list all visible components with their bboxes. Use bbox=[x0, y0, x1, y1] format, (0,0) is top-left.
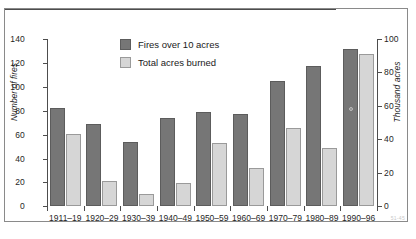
bar-group bbox=[47, 39, 84, 206]
y-ticklabel-right-40: 40 bbox=[384, 134, 394, 144]
y-ticklabel-right-60: 60 bbox=[384, 101, 394, 111]
bar-group bbox=[304, 39, 341, 206]
x-tick bbox=[377, 206, 378, 211]
y-axis-right-line bbox=[377, 39, 378, 207]
bar-group bbox=[340, 39, 377, 206]
y-ticklabel-right-20: 20 bbox=[384, 168, 394, 178]
bar-total-acres-burned bbox=[286, 128, 301, 206]
y-tick-right-100 bbox=[378, 39, 382, 40]
bar-group bbox=[267, 39, 304, 206]
bar-fires-over-10-acres bbox=[306, 66, 321, 206]
y-ticklabel-right-80: 80 bbox=[384, 67, 394, 77]
bar-fires-over-10-acres bbox=[270, 81, 285, 206]
bar-group bbox=[120, 39, 157, 206]
x-tick bbox=[194, 206, 195, 211]
x-tick bbox=[340, 206, 341, 211]
x-axis-label: 1911–19 bbox=[47, 213, 84, 223]
x-tick bbox=[84, 206, 85, 211]
x-tick bbox=[304, 206, 305, 211]
x-axis-label: 1950–59 bbox=[194, 213, 231, 223]
x-tick bbox=[157, 206, 158, 211]
bar-group bbox=[157, 39, 194, 206]
x-tick bbox=[267, 206, 268, 211]
x-axis-label: 1970–79 bbox=[267, 213, 304, 223]
chart-figure: Number of fires Thousand acres 140 120 1… bbox=[0, 0, 416, 239]
bar-total-acres-burned bbox=[139, 194, 154, 206]
bar-total-acres-burned bbox=[176, 183, 191, 206]
y-tick-right-40 bbox=[378, 139, 382, 140]
bar-fires-over-10-acres bbox=[233, 114, 248, 206]
x-tick bbox=[120, 206, 121, 211]
x-axis-label: 1920–29 bbox=[84, 213, 121, 223]
x-axis-label: 1940–49 bbox=[157, 213, 194, 223]
chart-frame: Number of fires Thousand acres 140 120 1… bbox=[4, 8, 408, 222]
y-ticklabel-left-100: 100 bbox=[10, 82, 25, 92]
corner-note: 51-45 bbox=[391, 215, 405, 221]
bar-group bbox=[84, 39, 121, 206]
x-axis-label: 1960–69 bbox=[230, 213, 267, 223]
y-tick-right-80 bbox=[378, 72, 382, 73]
y-tick-right-20 bbox=[378, 173, 382, 174]
bar-fires-over-10-acres bbox=[123, 142, 138, 206]
bar-marker-dot-icon bbox=[349, 107, 353, 111]
bar-total-acres-burned bbox=[102, 181, 117, 206]
bar-group bbox=[194, 39, 231, 206]
bar-total-acres-burned bbox=[249, 168, 264, 206]
bars-area bbox=[47, 39, 377, 206]
bar-total-acres-burned bbox=[359, 54, 374, 206]
x-axis-line bbox=[5, 9, 336, 10]
y-ticklabel-left-0: 0 bbox=[20, 201, 25, 211]
x-axis-label: 1930–39 bbox=[120, 213, 157, 223]
y-tick-right-0 bbox=[378, 206, 382, 207]
x-tick bbox=[230, 206, 231, 211]
y-ticklabel-left-80: 80 bbox=[15, 106, 25, 116]
y-ticklabel-right-0: 0 bbox=[384, 201, 389, 211]
bar-total-acres-burned bbox=[66, 134, 81, 206]
y-ticklabel-left-20: 20 bbox=[15, 177, 25, 187]
x-axis-label: 1990–96 bbox=[340, 213, 377, 223]
bar-fires-over-10-acres bbox=[50, 108, 65, 206]
bar-fires-over-10-acres bbox=[86, 124, 101, 206]
bar-total-acres-burned bbox=[212, 143, 227, 206]
bar-fires-over-10-acres bbox=[343, 49, 358, 206]
bar-total-acres-burned bbox=[322, 148, 337, 206]
bar-fires-over-10-acres bbox=[160, 118, 175, 206]
y-tick-right-60 bbox=[378, 106, 382, 107]
y-ticklabel-left-40: 40 bbox=[15, 154, 25, 164]
y-axis-right-title: Thousand acres bbox=[392, 37, 402, 147]
y-ticklabel-left-60: 60 bbox=[15, 130, 25, 140]
bar-fires-over-10-acres bbox=[196, 112, 211, 206]
x-tick bbox=[47, 206, 48, 211]
x-axis-label: 1980–89 bbox=[304, 213, 341, 223]
y-ticklabel-left-140: 140 bbox=[10, 34, 25, 44]
y-ticklabel-left-120: 120 bbox=[10, 58, 25, 68]
y-ticklabel-right-100: 100 bbox=[384, 34, 399, 44]
bar-group bbox=[230, 39, 267, 206]
